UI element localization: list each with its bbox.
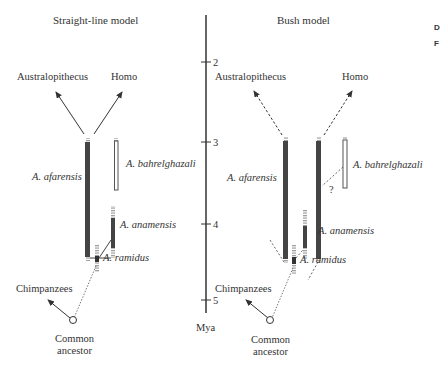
label-common-ancestor-2: ancestor xyxy=(57,345,92,356)
bush-title: Bush model xyxy=(277,14,330,26)
bar-ramidus xyxy=(95,256,99,262)
tick-4: 4 xyxy=(213,219,219,230)
bush-label-afarensis: A. afarensis xyxy=(226,172,277,183)
label-common-ancestor-1: Common xyxy=(55,333,95,344)
bush-common-ancestor-node xyxy=(267,317,274,324)
hominin-phylogeny-diagram: D F 2 3 4 5 Mya Straight-line model Aust… xyxy=(0,0,441,381)
bush-label-australopithecus: Australopithecus xyxy=(215,71,286,82)
label-chimpanzees: Chimpanzees xyxy=(16,283,73,294)
label-australopithecus: Australopithecus xyxy=(17,71,88,82)
label-ramidus: A. ramidus xyxy=(102,252,149,263)
corner-text-2: F xyxy=(434,39,439,48)
straight-line-model: Straight-line model Australopithecus Hom… xyxy=(16,14,196,356)
bush-bar-ramidus xyxy=(292,257,296,264)
bar-afarensis xyxy=(85,142,90,257)
bush-label-ramidus: A. ramidus xyxy=(299,254,346,265)
bush-model: Bush model Australopithecus Homo A. afar… xyxy=(215,14,423,357)
tick-5: 5 xyxy=(213,295,218,306)
corner-text-1: D xyxy=(434,23,440,32)
tick-3: 3 xyxy=(213,137,218,148)
bush-bar-anamensis xyxy=(303,226,307,248)
bush-bar-bahrelghazali xyxy=(343,140,347,188)
label-homo: Homo xyxy=(111,71,137,82)
bush-bar-afarensis xyxy=(283,141,288,259)
bush-label-chimpanzees: Chimpanzees xyxy=(215,283,272,294)
bar-bahrelghazali xyxy=(115,141,119,190)
bush-label-common-ancestor-2: ancestor xyxy=(253,346,288,357)
straight-line-title: Straight-line model xyxy=(53,14,138,26)
common-ancestor-node xyxy=(70,317,77,324)
bush-bar-homo-stem xyxy=(316,141,321,259)
label-bahrelghazali: A. bahrelghazali xyxy=(125,158,196,169)
axis-unit-label: Mya xyxy=(196,322,216,333)
tick-2: 2 xyxy=(213,57,218,68)
label-anamensis: A. anamensis xyxy=(119,219,176,230)
bush-label-homo: Homo xyxy=(342,71,368,82)
bush-label-bahrelghazali: A. bahrelghazali xyxy=(352,159,423,170)
bush-label-anamensis: A. anamensis xyxy=(317,225,374,236)
bush-label-common-ancestor-1: Common xyxy=(251,334,291,345)
bush-question-mark: ? xyxy=(329,184,334,195)
bar-anamensis xyxy=(111,218,115,248)
label-afarensis: A. afarensis xyxy=(31,171,82,182)
